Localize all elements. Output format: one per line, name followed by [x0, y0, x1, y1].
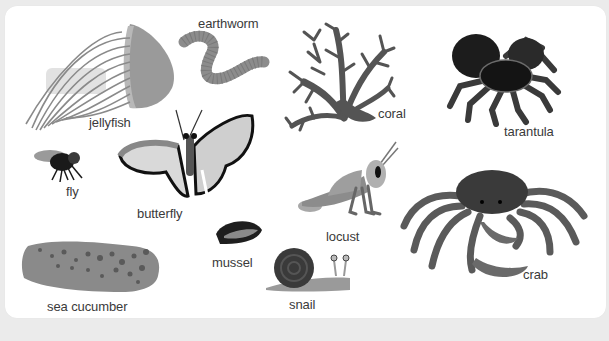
sea-cucumber-illustration: [22, 236, 162, 294]
butterfly-illustration: [118, 110, 258, 202]
fly-illustration: [32, 148, 88, 184]
crab-illustration: [400, 166, 590, 291]
earthworm-illustration: [178, 30, 270, 92]
snail-illustration: [266, 246, 352, 292]
mussel-illustration: [214, 218, 264, 248]
sea-cucumber-label: sea cucumber: [47, 299, 127, 314]
fly-label: fly: [66, 184, 79, 199]
butterfly-label: butterfly: [137, 206, 182, 221]
snail-label: snail: [289, 297, 315, 312]
tarantula-label: tarantula: [504, 124, 554, 139]
crab-label: crab: [523, 267, 548, 282]
mussel-label: mussel: [212, 255, 253, 270]
earthworm-label: earthworm: [198, 16, 259, 31]
locust-label: locust: [326, 229, 359, 244]
coral-label: coral: [378, 106, 406, 121]
locust-illustration: [298, 136, 398, 218]
tarantula-illustration: [446, 30, 561, 125]
